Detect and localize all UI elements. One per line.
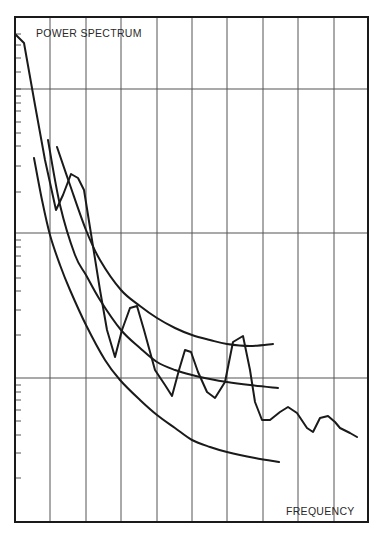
y-axis-label: POWER SPECTRUM (36, 27, 142, 39)
power-spectrum-chart (0, 0, 381, 536)
data-series (15, 34, 357, 462)
series-upper-envelope (57, 147, 273, 346)
series-mean-trend (48, 140, 278, 388)
grid-lines (15, 17, 368, 522)
series-measured-spectrum (15, 34, 357, 437)
x-axis-label: FREQUENCY (286, 505, 355, 517)
